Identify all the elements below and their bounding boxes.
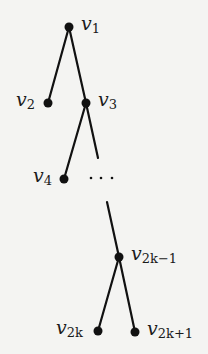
edge-v3-v4 <box>64 103 86 179</box>
ellipsis-dot-1 <box>90 177 93 180</box>
node-v1 <box>65 23 74 32</box>
label-v2k+1: v2k+1 <box>147 319 193 340</box>
edge-v1-v3 <box>69 27 86 103</box>
label-v4: v4 <box>33 166 52 187</box>
label-v2k-1: v2k−1 <box>131 244 177 265</box>
node-v3 <box>82 99 91 108</box>
node-v4 <box>60 175 69 184</box>
tree-diagram: v1 v2 v3 v4 v2k−1 v2k v2k+1 <box>0 0 208 354</box>
label-v2k: v2k <box>56 318 83 339</box>
label-v3: v3 <box>98 90 117 111</box>
node-v2k+1 <box>131 328 140 337</box>
node-v2 <box>44 99 53 108</box>
node-v2k-1 <box>115 253 124 262</box>
edge-v3-continuation <box>86 103 98 158</box>
label-v1: v1 <box>81 14 100 35</box>
edge-v2k-1-v2k+1 <box>119 257 135 332</box>
node-v2k <box>94 327 103 336</box>
edge-continuation-v2k-1 <box>107 202 119 257</box>
edge-v2k-1-v2k <box>98 257 119 331</box>
label-v2: v2 <box>16 90 35 111</box>
edge-v1-v2 <box>48 27 69 103</box>
ellipsis-dot-2 <box>100 177 103 180</box>
ellipsis-dot-3 <box>111 177 114 180</box>
tree-edges-and-nodes <box>0 0 208 354</box>
